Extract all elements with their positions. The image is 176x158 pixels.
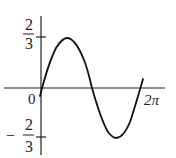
origin-label: 0: [28, 91, 36, 107]
y-bottom-numerator: 2: [25, 116, 33, 133]
sine-chart: 2 3 0 2π − 2 3: [0, 0, 176, 158]
y-bottom-sign: −: [6, 127, 15, 144]
y-bottom-denominator: 3: [25, 138, 33, 155]
x-end-label: 2π: [144, 92, 160, 108]
y-top-numerator: 2: [25, 16, 33, 33]
y-top-denominator: 3: [25, 35, 33, 52]
